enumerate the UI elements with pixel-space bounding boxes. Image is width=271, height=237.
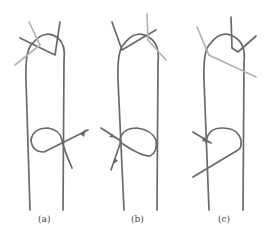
caption-c: (c) <box>218 214 230 224</box>
caption-a: (a) <box>38 214 50 224</box>
panel-b-top-loop <box>118 34 158 210</box>
panel-c-top-strand-1 <box>231 17 256 52</box>
panel-b <box>101 14 166 210</box>
panel-a-top-strand-light <box>15 22 40 65</box>
panel-c-top-loop <box>204 34 244 210</box>
panel-a-top-loop <box>26 34 65 210</box>
caption-b: (b) <box>131 214 144 224</box>
knot-diagram <box>0 0 271 237</box>
panel-a <box>15 22 88 210</box>
panel-a-top-strand-1 <box>20 22 60 55</box>
panel-c-bottom-loop <box>193 128 241 177</box>
panel-b-bottom-loop <box>120 128 156 156</box>
panel-c <box>193 17 256 210</box>
panel-b-bottom-strand-1 <box>101 128 121 141</box>
panel-b-bottom-strand-2 <box>111 141 121 170</box>
